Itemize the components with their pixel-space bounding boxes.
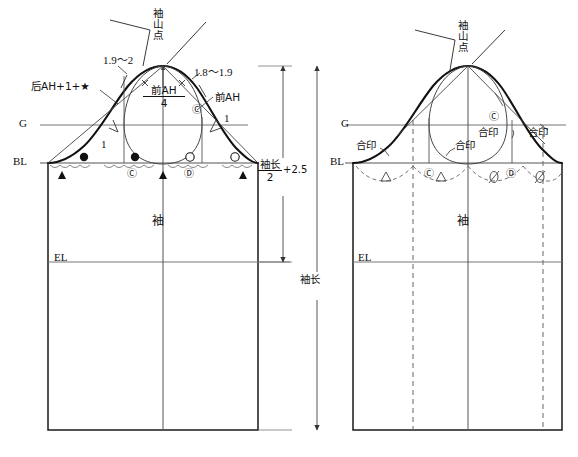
left-tick-one-left: 1 <box>101 139 107 151</box>
pattern-figure-stage: 袖山点 1.9～2 1.8～1.9 后AH+1+★ 前AH 前AH 4 1 1 … <box>0 0 578 457</box>
filled-triangle-3 <box>239 171 247 179</box>
right-mark-c-upper: Ⓒ <box>489 112 499 123</box>
pattern-drawing <box>0 0 578 457</box>
open-circle-2 <box>231 153 239 161</box>
right-mark-d-lower: Ⓓ <box>506 169 516 180</box>
half-sleeve-length-num: 袖长 <box>258 158 282 171</box>
filled-triangle-1 <box>58 171 66 179</box>
left-sleeve-body-outline <box>48 163 258 430</box>
right-sleeve-label: 袖 <box>457 215 469 228</box>
right-leader-a2 <box>450 40 455 70</box>
filled-triangle-2 <box>159 171 167 179</box>
left-notch-c-mark: Ⓒ <box>127 169 137 180</box>
left-bl-label: BL <box>13 156 27 168</box>
left-front-ah-label: 前AH <box>215 92 240 103</box>
left-front-ah-chord <box>163 66 258 163</box>
left-leader-dim-a <box>118 66 127 74</box>
left-front-ah-quarter: 前AH 4 <box>143 84 185 109</box>
filled-circle-2 <box>131 153 139 161</box>
left-leader-back-ah <box>100 90 118 104</box>
right-back-chord <box>396 66 468 137</box>
right-notch-label-3: 合印 <box>478 127 498 138</box>
left-ease-wave-1 <box>50 165 90 168</box>
right-scallop-1 <box>356 166 413 181</box>
right-mark-c-lower: Ⓒ <box>424 169 434 180</box>
open-triangle-1 <box>381 172 391 181</box>
right-leader-a1 <box>415 30 455 40</box>
left-back-ah-label: 后AH+1+★ <box>31 81 90 92</box>
left-sleeve-label: 袖 <box>152 215 164 228</box>
left-el-label: EL <box>54 252 67 264</box>
left-g-label: G <box>19 118 27 130</box>
left-tick-one-right: 1 <box>224 113 230 125</box>
half-sleeve-length-dim: 袖长 2 +2.5 <box>258 158 307 183</box>
left-notch-d-mark: Ⓓ <box>184 169 194 180</box>
left-front-ah-quarter-num: 前AH <box>143 84 185 97</box>
sleeve-length-dim: 袖长 <box>300 274 320 285</box>
right-sleeve-body-outline <box>353 163 562 430</box>
left-cap-point-label: 袖山点 <box>152 8 163 41</box>
half-sleeve-length-den: 2 <box>258 171 282 183</box>
right-diagram-group <box>345 30 566 430</box>
half-sleeve-length-suffix: +2.5 <box>282 165 307 176</box>
right-g-label: G <box>341 118 349 130</box>
filled-circle-1 <box>80 153 88 161</box>
right-notch-label-1: 合印 <box>356 140 376 151</box>
right-notch-label-4: 合印 <box>528 127 548 138</box>
left-leader-a1 <box>110 20 150 30</box>
left-leader-a2 <box>143 30 150 66</box>
right-cap-point-label: 袖山点 <box>457 20 468 53</box>
left-leader-b <box>167 22 206 64</box>
open-triangle-2 <box>436 172 446 181</box>
left-ease-wave-4 <box>222 165 252 168</box>
right-bl-label: BL <box>330 156 344 168</box>
half-sleeve-length-fraction: 袖长 2 <box>258 158 282 183</box>
left-dim-right-label: 1.8～1.9 <box>194 67 233 79</box>
dimension-bars <box>258 66 317 430</box>
left-dim-left-label: 1.9～2 <box>103 55 133 67</box>
left-front-ah-quarter-den: 4 <box>143 97 185 109</box>
right-notch-label-2: 合印 <box>455 140 475 151</box>
open-circle-1 <box>186 153 194 161</box>
left-notch-c-upper-mark: Ⓒ <box>192 105 202 116</box>
left-tick-one-back <box>109 120 118 132</box>
right-el-label: EL <box>358 252 371 264</box>
right-leader-notch-2 <box>446 148 455 156</box>
right-leader-b <box>472 30 505 64</box>
